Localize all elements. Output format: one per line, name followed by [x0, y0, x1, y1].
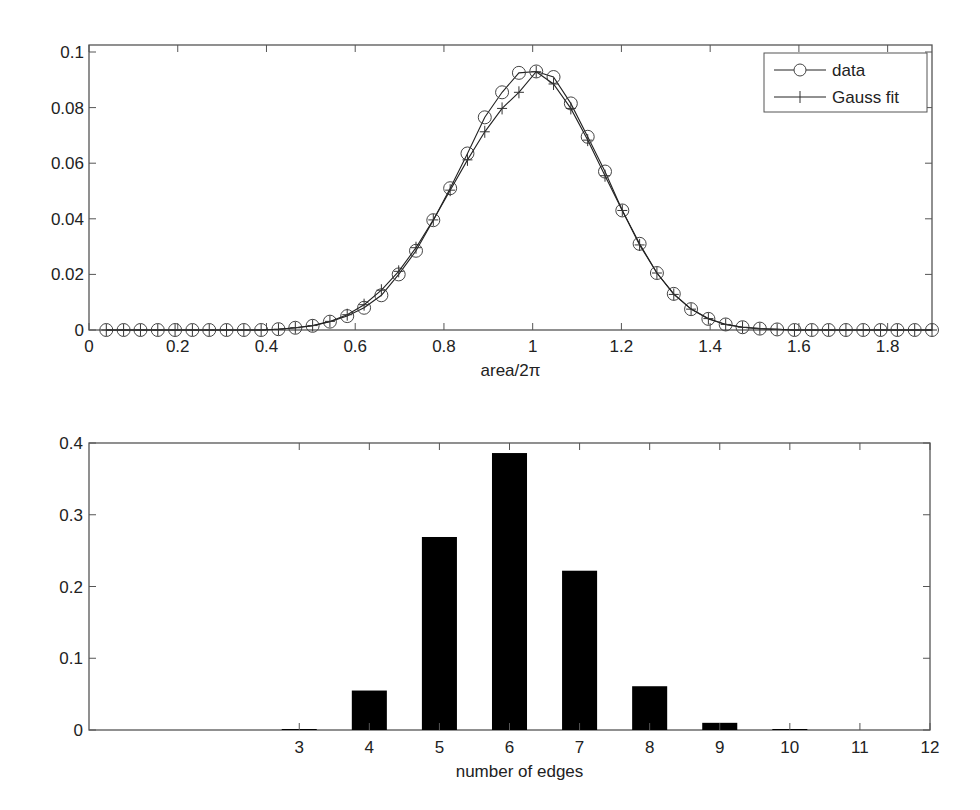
- x-axis-label: area/2π: [481, 361, 541, 380]
- bar-6: [492, 453, 527, 730]
- y-tick-label: 0.4: [59, 434, 83, 453]
- legend-circle-marker-icon: [794, 64, 806, 76]
- y-tick-label: 0.08: [51, 99, 84, 118]
- y-tick-label: 0.04: [51, 210, 84, 229]
- x-tick-label: 3: [295, 738, 304, 757]
- edges-histogram-chart: 345678910111200.10.20.30.4number of edge…: [59, 434, 939, 781]
- x-tick-label: 1.2: [610, 337, 634, 356]
- x-tick-label: 9: [715, 738, 724, 757]
- x-tick-label: 0.8: [432, 337, 456, 356]
- x-tick-label: 11: [851, 738, 869, 757]
- x-tick-label: 1.8: [876, 337, 900, 356]
- area-distribution-chart: 00.20.40.60.811.21.41.61.800.020.040.060…: [51, 43, 939, 380]
- x-tick-label: 0.6: [343, 337, 367, 356]
- y-tick-label: 0: [75, 321, 84, 340]
- x-tick-label: 1: [528, 337, 537, 356]
- x-tick-label: 12: [921, 738, 940, 757]
- y-tick-label: 0.1: [60, 43, 84, 62]
- x-tick-label: 10: [780, 738, 799, 757]
- x-tick-label: 5: [435, 738, 444, 757]
- y-tick-label: 0.3: [59, 506, 83, 525]
- x-tick-label: 7: [575, 738, 584, 757]
- x-tick-label: 0.4: [255, 337, 279, 356]
- y-tick-label: 0.06: [51, 154, 84, 173]
- figure: 00.20.40.60.811.21.41.61.800.020.040.060…: [0, 0, 980, 810]
- x-axis-label: number of edges: [456, 762, 584, 781]
- bar-7: [562, 571, 597, 730]
- y-tick-label: 0: [74, 721, 83, 740]
- legend-label: data: [832, 61, 866, 80]
- x-tick-label: 0: [84, 337, 93, 356]
- x-tick-label: 1.4: [698, 337, 722, 356]
- x-tick-label: 6: [505, 738, 514, 757]
- y-tick-label: 0.02: [51, 265, 84, 284]
- bar-5: [422, 537, 457, 730]
- y-tick-label: 0.2: [59, 578, 83, 597]
- x-tick-label: 1.6: [787, 337, 811, 356]
- legend: dataGauss fit: [764, 53, 927, 112]
- x-tick-label: 8: [645, 738, 654, 757]
- x-tick-label: 0.2: [166, 337, 190, 356]
- y-tick-label: 0.1: [59, 649, 83, 668]
- legend-label: Gauss fit: [832, 88, 899, 107]
- x-tick-label: 4: [365, 738, 374, 757]
